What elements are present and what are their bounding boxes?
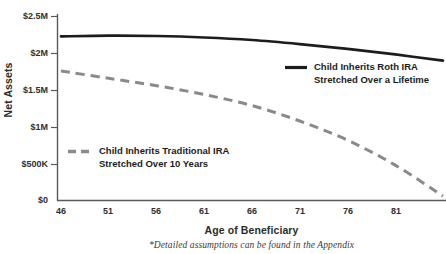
legend-label-line2: Stretched Over 10 Years — [99, 158, 229, 171]
dashed-line-marker — [68, 149, 92, 154]
legend-label-line1: Child Inherits Roth IRA — [314, 61, 429, 74]
legend-label-line1: Child Inherits Traditional IRA — [99, 145, 229, 158]
plot-area — [0, 0, 446, 254]
solid-line-marker — [285, 65, 307, 70]
legend-label-traditional-ira: Child Inherits Traditional IRA Stretched… — [99, 145, 229, 170]
y-axis-ticks — [51, 17, 57, 165]
legend-item-traditional-ira: Child Inherits Traditional IRA Stretched… — [68, 145, 229, 170]
legend-label-roth-ira: Child Inherits Roth IRA Stretched Over a… — [314, 61, 429, 86]
chart-footnote: *Detailed assumptions can be found in th… — [57, 240, 446, 250]
series-line-roth-ira — [61, 36, 443, 61]
chart-container: Net Assets $2.5M $2M $1.5M $1M $500K $0 … — [0, 0, 446, 254]
legend-label-line2: Stretched Over a Lifetime — [314, 74, 429, 87]
x-axis-title: Age of Beneficiary — [57, 224, 446, 236]
series-line-traditional-ira — [61, 71, 443, 196]
legend-item-roth-ira: Child Inherits Roth IRA Stretched Over a… — [285, 61, 429, 86]
